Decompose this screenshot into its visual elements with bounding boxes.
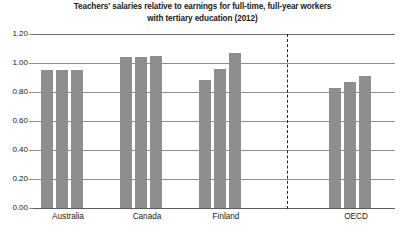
bar-oecd-3: [359, 76, 371, 208]
bar-oecd-2: [344, 82, 356, 208]
y-axis-tick-label-0.20: 0.20: [0, 175, 28, 183]
bar-canada-2: [135, 57, 147, 208]
chart-title-line-2: with tertiary education (2012): [0, 13, 405, 25]
bar-finland-3: [229, 53, 241, 208]
group-separator-dashed-line: [287, 34, 288, 209]
y-axis-tick-label-0.60: 0.60: [0, 117, 28, 125]
plot-area: [33, 34, 395, 208]
gridline-1.20: [33, 34, 395, 35]
x-axis-category-canada: Canada: [107, 212, 187, 222]
y-axis-tick-label-0.40: 0.40: [0, 146, 28, 154]
bar-australia-3: [71, 70, 83, 208]
y-axis-tick-label-1.00: 1.00: [0, 59, 28, 67]
axis-baseline-0.00: [33, 208, 395, 209]
bar-oecd-1: [329, 88, 341, 208]
chart-screenshot: Teachers' salaries relative to earnings …: [0, 0, 405, 233]
bar-finland-1: [199, 80, 211, 208]
bar-australia-2: [56, 70, 68, 208]
gridline-1.00: [33, 63, 395, 64]
bar-australia-1: [41, 70, 53, 208]
chart-title-line-1: Teachers' salaries relative to earnings …: [0, 1, 405, 13]
y-axis-tick-label-0.80: 0.80: [0, 88, 28, 96]
x-axis-category-finland: Finland: [186, 212, 266, 222]
bar-canada-1: [120, 57, 132, 208]
chart-title: Teachers' salaries relative to earnings …: [0, 1, 405, 24]
y-axis-tick-label-0.00: 0.00: [0, 204, 28, 212]
y-axis-tick-label-1.20: 1.20: [0, 30, 28, 38]
bar-finland-2: [214, 69, 226, 208]
x-axis-category-oecd: OECD: [316, 212, 396, 222]
bar-canada-3: [150, 56, 162, 208]
x-axis-category-australia: Australia: [28, 212, 108, 222]
